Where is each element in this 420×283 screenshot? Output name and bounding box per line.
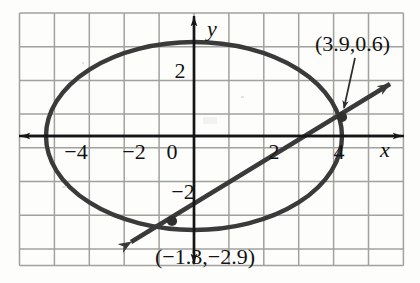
upper-intersection-label: (3.9,0.6): [315, 31, 390, 56]
x-tick-label--2: −2: [122, 139, 145, 164]
scan-speck: [82, 62, 84, 64]
x-tick-label-4: 4: [334, 139, 345, 164]
graph-figure: x y 0 −4 −2 2 4 2 −2 (3.9,0.6) (−1.3,−2.…: [0, 0, 420, 283]
y-axis-label: y: [205, 16, 217, 41]
intersection-point-upper: [337, 112, 347, 122]
scan-speck: [203, 117, 217, 124]
scan-speck: [241, 96, 244, 98]
scan-speck: [62, 186, 67, 188]
y-tick-label--2: −2: [171, 179, 194, 204]
x-tick-label-2: 2: [269, 139, 280, 164]
upper-label-pointer-icon: [344, 58, 355, 108]
intersection-point-lower: [167, 216, 177, 226]
origin-label: 0: [167, 139, 178, 164]
y-tick-label-2: 2: [175, 58, 186, 83]
lower-intersection-label: (−1.3,−2.9): [155, 244, 255, 269]
coordinate-plane-svg: x y 0 −4 −2 2 4 2 −2 (3.9,0.6) (−1.3,−2.…: [0, 0, 420, 283]
x-tick-label--4: −4: [64, 139, 87, 164]
x-axis-label: x: [379, 137, 390, 162]
